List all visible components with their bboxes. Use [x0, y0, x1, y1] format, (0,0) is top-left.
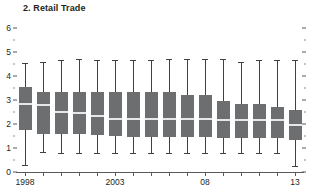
x-axis-tick	[259, 172, 260, 176]
median-line	[253, 119, 266, 121]
median-line	[145, 118, 158, 120]
whisker-cap-lower	[220, 153, 226, 154]
median-line	[235, 119, 248, 121]
x-axis-tick	[241, 172, 242, 176]
whisker-upper	[259, 60, 260, 103]
whisker-lower	[25, 130, 26, 165]
whisker-upper	[133, 60, 134, 91]
whisker-upper	[187, 59, 188, 95]
whisker-cap-lower	[40, 152, 46, 153]
median-line	[91, 115, 104, 117]
whisker-upper	[97, 60, 98, 91]
whisker-cap-lower	[202, 153, 208, 154]
y-axis-minor-tick	[304, 160, 306, 161]
whisker-cap-upper	[220, 59, 226, 60]
whisker-lower	[169, 137, 170, 153]
median-line	[73, 112, 86, 114]
box-iqr	[199, 95, 212, 137]
y-axis-tick-label: 6	[6, 23, 11, 33]
whisker-upper	[205, 59, 206, 95]
box-iqr	[271, 107, 284, 138]
y-axis-minor-tick	[304, 40, 306, 41]
whisker-upper	[169, 59, 170, 91]
x-axis-tick	[115, 172, 116, 176]
median-line	[109, 118, 122, 120]
x-axis-tick	[97, 172, 98, 176]
whisker-lower	[133, 137, 134, 153]
whisker-upper	[61, 60, 62, 91]
box-iqr	[19, 87, 32, 130]
boxplot-series	[16, 26, 304, 172]
y-axis-minor-tick	[13, 112, 15, 113]
whisker-cap-lower	[94, 153, 100, 154]
y-axis-minor-tick	[304, 136, 306, 137]
whisker-upper	[151, 60, 152, 91]
chart-title: 2. Retail Trade	[23, 3, 86, 13]
x-axis-tick	[25, 172, 26, 176]
x-axis-tick-label: 13	[290, 177, 299, 187]
whisker-lower	[43, 134, 44, 152]
y-axis-minor-tick	[304, 112, 306, 113]
whisker-cap-upper	[112, 60, 118, 61]
whisker-cap-upper	[202, 59, 208, 60]
y-axis-minor-tick	[304, 64, 306, 65]
whisker-lower	[61, 134, 62, 153]
y-axis-tick-label: 1	[6, 143, 11, 153]
y-axis-minor-tick	[13, 40, 15, 41]
x-axis-tick	[205, 172, 206, 176]
whisker-cap-upper	[40, 62, 46, 63]
whisker-cap-upper	[94, 60, 100, 61]
whisker-cap-upper	[130, 60, 136, 61]
whisker-upper	[43, 62, 44, 92]
whisker-upper	[115, 60, 116, 91]
median-line	[199, 118, 212, 120]
box-iqr	[91, 92, 104, 135]
whisker-cap-upper	[292, 60, 298, 61]
x-axis-tick-label: 1998	[16, 177, 35, 187]
whisker-cap-upper	[22, 63, 28, 64]
whisker-lower	[205, 137, 206, 153]
median-line	[127, 118, 140, 120]
chart-figure: 2. Retail Trade 0123456 199820030813	[0, 0, 319, 189]
x-axis-tick	[61, 172, 62, 176]
whisker-cap-upper	[274, 60, 280, 61]
median-line	[271, 119, 284, 121]
median-line	[289, 124, 302, 126]
whisker-lower	[115, 136, 116, 153]
y-axis-tick-label: 5	[6, 47, 11, 57]
whisker-cap-lower	[22, 165, 28, 166]
whisker-cap-lower	[112, 153, 118, 154]
whisker-cap-upper	[238, 62, 244, 63]
whisker-cap-lower	[238, 153, 244, 154]
whisker-upper	[277, 60, 278, 107]
x-axis-tick	[79, 172, 80, 176]
whisker-upper	[241, 62, 242, 104]
whisker-cap-lower	[166, 153, 172, 154]
whisker-cap-upper	[148, 60, 154, 61]
median-line	[37, 104, 50, 106]
whisker-cap-upper	[184, 59, 190, 60]
box-iqr	[163, 92, 176, 138]
x-axis-tick	[151, 172, 152, 176]
median-line	[55, 111, 68, 113]
whisker-cap-lower	[130, 153, 136, 154]
whisker-lower	[223, 138, 224, 152]
whisker-lower	[151, 137, 152, 153]
box-iqr	[127, 92, 140, 138]
median-line	[19, 103, 32, 105]
y-axis-minor-tick	[304, 88, 306, 89]
y-axis-minor-tick	[13, 160, 15, 161]
y-axis: 0123456	[0, 0, 11, 189]
whisker-cap-lower	[184, 153, 190, 154]
whisker-lower	[187, 137, 188, 153]
x-axis-tick	[295, 172, 296, 176]
median-line	[217, 119, 230, 121]
x-axis-tick	[169, 172, 170, 176]
y-axis-minor-tick	[13, 136, 15, 137]
whisker-lower	[259, 138, 260, 152]
whisker-cap-upper	[256, 60, 262, 61]
x-axis-tick-label: 08	[200, 177, 209, 187]
x-axis-tick	[223, 172, 224, 176]
whisker-lower	[79, 134, 80, 153]
y-axis-minor-tick	[13, 88, 15, 89]
